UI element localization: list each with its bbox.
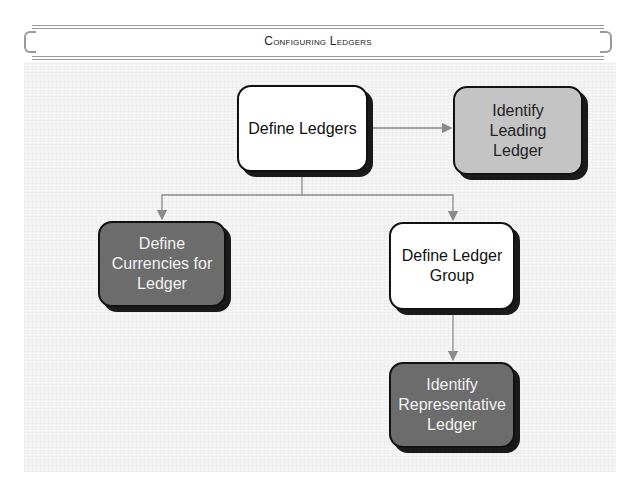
node-identify-representative-ledger[interactable]: Identify Representative Ledger bbox=[389, 362, 515, 448]
node-label: Define Ledger Group bbox=[402, 246, 503, 286]
connectors bbox=[0, 0, 639, 495]
node-label: Define Currencies for Ledger bbox=[112, 234, 212, 294]
edge-ledgers-branch bbox=[162, 175, 302, 219]
node-define-currencies[interactable]: Define Currencies for Ledger bbox=[98, 221, 226, 307]
node-label: Identify Leading Ledger bbox=[490, 101, 547, 161]
node-define-ledger-group[interactable]: Define Ledger Group bbox=[389, 222, 515, 310]
node-label: Identify Representative Ledger bbox=[398, 375, 506, 435]
node-identify-leading-ledger[interactable]: Identify Leading Ledger bbox=[453, 86, 583, 175]
edge-ledgers-to-group bbox=[302, 195, 453, 220]
node-define-ledgers[interactable]: Define Ledgers bbox=[237, 85, 368, 172]
node-label: Define Ledgers bbox=[248, 119, 357, 139]
